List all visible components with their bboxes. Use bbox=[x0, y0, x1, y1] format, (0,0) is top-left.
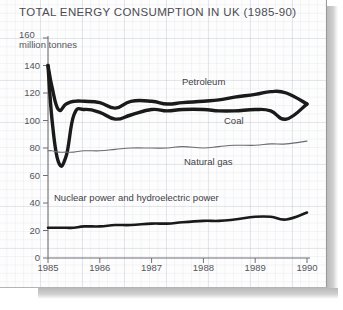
y-tick-label: 20 bbox=[14, 225, 40, 236]
series-line-2 bbox=[48, 141, 307, 152]
x-tick-label: 1986 bbox=[80, 262, 120, 273]
chart-page: TOTAL ENERGY CONSUMPTION IN UK (1985-90)… bbox=[0, 0, 343, 310]
x-tick-label: 1985 bbox=[28, 262, 68, 273]
x-tick-label: 1989 bbox=[235, 262, 275, 273]
y-tick-label: 40 bbox=[14, 197, 40, 208]
series-label-3: Nuclear power and hydroelectric power bbox=[54, 192, 219, 203]
y-tick-label: 100 bbox=[14, 115, 40, 126]
y-tick-label: 140 bbox=[14, 60, 40, 71]
series-line-3 bbox=[48, 213, 307, 228]
x-tick-label: 1990 bbox=[287, 262, 327, 273]
x-tick-label: 1987 bbox=[132, 262, 172, 273]
series-label-1: Coal bbox=[224, 115, 244, 126]
y-tick-label: 120 bbox=[14, 87, 40, 98]
y-tick-label: 60 bbox=[14, 170, 40, 181]
series-line-0 bbox=[48, 66, 307, 111]
series-label-0: Petroleum bbox=[182, 76, 225, 87]
y-tick-label: 80 bbox=[14, 142, 40, 153]
data-series-group bbox=[48, 66, 307, 228]
series-label-2: Natural gas bbox=[184, 156, 233, 167]
x-tick-label: 1988 bbox=[183, 262, 223, 273]
